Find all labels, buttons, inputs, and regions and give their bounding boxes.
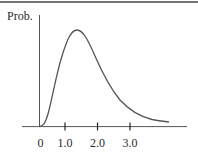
probability-density-chart: Prob. 0 1.0 2.0 3.0 xyxy=(0,0,198,154)
x-tick-label-2: 2.0 xyxy=(90,136,105,150)
density-curve xyxy=(40,30,170,127)
x-tick-label-3: 3.0 xyxy=(123,136,138,150)
x-tick-label-1: 1.0 xyxy=(58,136,73,150)
x-tick-label-0: 0 xyxy=(38,136,44,150)
y-axis-label: Prob. xyxy=(7,9,33,23)
